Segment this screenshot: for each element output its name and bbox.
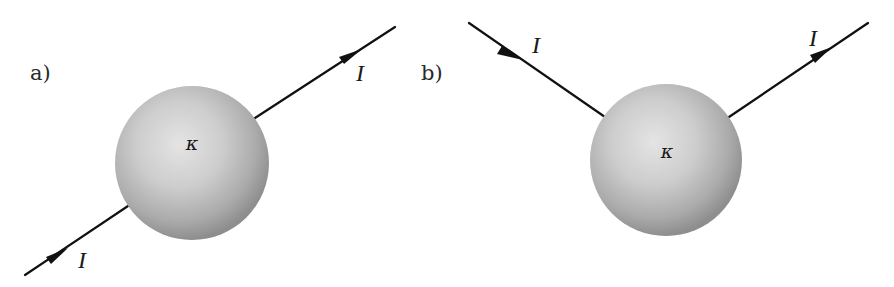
figure-canvas: a) κ I I b) κ — [0, 0, 894, 287]
arrow-icon — [497, 46, 523, 60]
panel-b-label: b) — [421, 61, 443, 85]
panel-a-incoming-wire — [25, 206, 128, 275]
panel-b: b) κ I I — [421, 23, 868, 236]
panel-a-kappa-label: κ — [185, 132, 199, 154]
panel-a-current-label-out: I — [355, 60, 365, 86]
panel-b-current-label-in: I — [531, 32, 541, 58]
panel-b-kappa-label: κ — [660, 140, 674, 162]
arrow-icon — [46, 248, 68, 264]
panel-b-current-label-out: I — [808, 25, 818, 51]
wire-line — [729, 23, 868, 117]
wire-line — [255, 27, 395, 118]
wire-line — [25, 206, 128, 275]
panel-a-outgoing-wire — [255, 27, 395, 118]
panel-a-label: a) — [30, 61, 51, 85]
panel-a-current-label-in: I — [77, 247, 87, 273]
panel-a: a) κ I I — [25, 27, 395, 275]
panel-b-outgoing-wire — [729, 23, 868, 117]
panel-a-sphere — [115, 86, 269, 240]
